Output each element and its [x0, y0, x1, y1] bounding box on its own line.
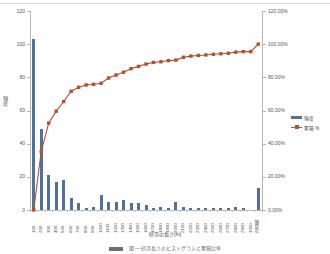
x-axis-tick-label: 900 — [91, 213, 95, 233]
x-axis-tick — [67, 210, 68, 212]
x-axis-tick-label: 500 — [61, 213, 65, 233]
cumulative-line-marker — [114, 73, 117, 76]
x-axis-tick — [45, 210, 46, 212]
x-axis-tick — [180, 210, 181, 212]
x-axis-tick — [75, 210, 76, 212]
x-axis-tick-label: 100 — [32, 213, 36, 233]
cumulative-line-marker — [32, 208, 35, 211]
cumulative-line-marker — [54, 109, 57, 112]
chart-legend: 頻度 累積 % — [291, 113, 330, 133]
y-axis-right-tick-label: 120.00% — [268, 9, 302, 14]
y-axis-left-tick-label: 120 — [3, 9, 25, 14]
x-axis-tick-label: 1300 — [121, 213, 125, 233]
x-axis-tick-label: 400 — [54, 213, 58, 233]
x-axis-tick-label: 2700 — [226, 213, 230, 233]
legend-label-cumulative: 累積 % — [304, 126, 319, 131]
y-axis-left-tick-label: 80 — [3, 75, 25, 80]
x-axis-tick — [37, 210, 38, 212]
cumulative-line-marker — [69, 90, 72, 93]
x-axis-tick-label: 1600 — [144, 213, 148, 233]
y-axis-right-tick — [263, 210, 266, 211]
x-axis-tick-label: 2200 — [189, 213, 193, 233]
line-marker-swatch-icon — [291, 123, 302, 133]
cumulative-line-marker — [84, 83, 87, 86]
figure-caption: 図 — 砂浜長さのヒストグラムと累積比率 — [0, 245, 330, 254]
x-axis-tick — [217, 210, 218, 212]
y-axis-right-tick — [263, 77, 266, 78]
pareto-chart-figure: 頻度 020406080100120 0.00%20.00%40.00%60.0… — [0, 0, 330, 254]
x-axis-tick — [90, 210, 91, 212]
cumulative-line-marker — [197, 54, 200, 57]
cumulative-line-marker — [182, 56, 185, 59]
x-axis-tick — [30, 210, 31, 212]
x-axis-tick — [202, 210, 203, 212]
cumulative-line-marker — [242, 50, 245, 53]
x-axis-tick-label: 3000 — [249, 213, 253, 233]
x-axis-tick-label: 1700 — [151, 213, 155, 233]
x-axis-tick-label: 300 — [47, 213, 51, 233]
x-axis-tick-label: 1200 — [114, 213, 118, 233]
x-axis-tick — [105, 210, 106, 212]
x-axis-tick — [112, 210, 113, 212]
cumulative-line-marker — [144, 62, 147, 65]
y-axis-left-tick-label: 100 — [3, 42, 25, 47]
y-axis-right-tick — [263, 111, 266, 112]
cumulative-line-marker — [159, 60, 162, 63]
cumulative-line-marker — [99, 82, 102, 85]
cumulative-line-marker — [227, 52, 230, 55]
cumulative-line-marker — [174, 58, 177, 61]
cumulative-line-marker — [249, 50, 252, 53]
x-axis-tick — [262, 210, 263, 212]
y-axis-right-tick-label: 100.00% — [268, 42, 302, 47]
x-axis-tick — [97, 210, 98, 212]
x-axis-line — [30, 210, 263, 211]
x-axis-tick — [127, 210, 128, 212]
cumulative-line-marker — [122, 70, 125, 73]
cumulative-line-marker — [92, 83, 95, 86]
x-axis-tick-label: 1400 — [129, 213, 133, 233]
cumulative-line-marker — [137, 65, 140, 68]
x-axis-tick — [187, 210, 188, 212]
legend-item-frequency[interactable]: 頻度 — [291, 113, 330, 123]
y-axis-left-tick-label: 60 — [3, 108, 25, 113]
x-axis-tick-label: 2300 — [196, 213, 200, 233]
x-axis-tick-label: 2800 — [234, 213, 238, 233]
legend-label-frequency: 頻度 — [304, 116, 314, 121]
y-axis-right-tick — [263, 144, 266, 145]
caption-text: 図 — 砂浜長さのヒストグラムと累積比率 — [129, 245, 222, 251]
cumulative-line-marker — [212, 53, 215, 56]
y-axis-right-tick-label: 20.00% — [268, 174, 302, 179]
cumulative-line-marker — [234, 50, 237, 53]
cumulative-line-marker — [219, 52, 222, 55]
x-axis-tick — [210, 210, 211, 212]
cumulative-line-marker — [129, 67, 132, 70]
y-axis-left-tick-label: 40 — [3, 141, 25, 146]
cumulative-line-marker — [204, 53, 207, 56]
x-axis-tick-label: 1100 — [106, 213, 110, 233]
x-axis-tick — [135, 210, 136, 212]
x-axis-tick — [255, 210, 256, 212]
x-axis-tick — [232, 210, 233, 212]
y-axis-right-tick-label: 0.00% — [268, 208, 302, 213]
cumulative-line-marker — [257, 42, 260, 45]
x-axis-tick-label: 2000 — [174, 213, 178, 233]
x-axis-tick — [225, 210, 226, 212]
x-axis-tick-label: 1500 — [136, 213, 140, 233]
x-axis-tick — [60, 210, 61, 212]
x-axis-tick — [52, 210, 53, 212]
x-axis-tick-label: 1800 — [159, 213, 163, 233]
x-axis-tick — [157, 210, 158, 212]
x-axis-tick-label: 2600 — [219, 213, 223, 233]
legend-item-cumulative[interactable]: 累積 % — [291, 123, 330, 133]
x-axis-tick-label: 1000 — [99, 213, 103, 233]
cumulative-line-marker — [77, 86, 80, 89]
x-axis-tick — [150, 210, 151, 212]
y-axis-left-tick-label: 20 — [3, 174, 25, 179]
x-axis-tick-label: 600 — [69, 213, 73, 233]
y-axis-right-tick-label: 80.00% — [268, 75, 302, 80]
x-axis-title: 砂浜の長さ(m) — [0, 232, 330, 237]
y-axis-right-tick — [263, 11, 266, 12]
x-axis-tick — [172, 210, 173, 212]
x-axis-tick — [142, 210, 143, 212]
cumulative-line-marker — [40, 150, 43, 153]
